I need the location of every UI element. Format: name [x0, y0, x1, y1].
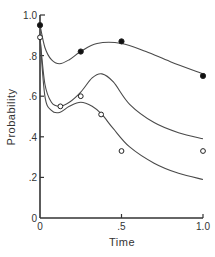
y-tick-label: 0	[31, 213, 37, 224]
x-tick-label: 1.0	[196, 221, 210, 232]
fitted-curve	[40, 37, 203, 139]
y-tick-label: 1.0	[23, 10, 37, 21]
filled-data-point	[78, 49, 83, 54]
filled-data-point	[37, 23, 42, 28]
open-data-point	[201, 149, 206, 154]
open-data-point	[99, 112, 104, 117]
fitted-curve	[40, 37, 203, 179]
x-tick-label: 0	[37, 221, 43, 232]
y-tick-label: .2	[29, 172, 38, 183]
y-tick-label: .8	[29, 51, 38, 62]
filled-data-point	[200, 73, 205, 78]
open-data-point	[58, 104, 63, 109]
open-data-point	[38, 35, 43, 40]
open-data-point	[78, 94, 83, 99]
probability-time-chart: 0.51.00.2.4.6.81.0 Time Probability	[0, 0, 215, 257]
filled-data-point	[119, 39, 124, 44]
open-data-point	[119, 149, 124, 154]
x-tick-label: .5	[117, 221, 126, 232]
y-tick-label: .4	[29, 132, 38, 143]
y-axis-title: Probability	[5, 89, 17, 146]
fitted-curve	[40, 25, 203, 74]
y-tick-label: .6	[29, 91, 38, 102]
x-axis-title: Time	[109, 236, 135, 248]
fitted-curves	[40, 25, 203, 179]
